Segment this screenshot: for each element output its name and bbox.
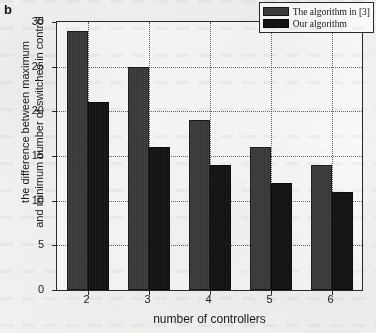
bar-series-0-category-5	[250, 147, 271, 290]
y-tick-mark	[52, 67, 57, 68]
y-tick-label: 20	[32, 104, 44, 116]
y-tick-label: 10	[32, 194, 44, 206]
bar-series-1-category-3	[149, 147, 170, 290]
y-tick-label: 0	[38, 283, 44, 295]
legend-item-1: Our algorithm	[263, 18, 370, 29]
panel-label: b	[4, 2, 12, 17]
bar-series-0-category-2	[67, 31, 88, 290]
legend-item-0: The algorithm in [3]	[263, 6, 370, 17]
y-tick-label: 15	[32, 149, 44, 161]
y-tick-label: 5	[38, 238, 44, 250]
x-tick-label: 6	[327, 293, 333, 305]
y-tick-mark	[52, 245, 57, 246]
bar-series-1-category-6	[332, 192, 353, 290]
y-axis-tick-labels: 051015202530	[0, 21, 52, 291]
legend-swatch-series-1	[263, 19, 289, 28]
y-tick-label: 25	[32, 60, 44, 72]
x-axis-tick-labels: 23456	[56, 293, 363, 309]
x-axis-title: number of controllers	[56, 312, 363, 326]
y-tick-mark	[52, 156, 57, 157]
x-tick-label: 5	[266, 293, 272, 305]
bar-series-0-category-6	[311, 165, 332, 290]
y-tick-mark	[52, 111, 57, 112]
plot-inner	[57, 22, 362, 290]
y-tick-mark	[52, 22, 57, 23]
legend-swatch-series-0	[263, 7, 289, 16]
bar-series-1-category-5	[271, 183, 292, 290]
bar-series-0-category-4	[189, 120, 210, 290]
bar-series-1-category-4	[210, 165, 231, 290]
y-tick-mark	[52, 201, 57, 202]
x-tick-label: 3	[144, 293, 150, 305]
legend-label-series-0: The algorithm in [3]	[293, 7, 370, 17]
chart-legend: The algorithm in [3] Our algorithm	[259, 2, 374, 33]
y-tick-mark	[52, 290, 57, 291]
bar-series-1-category-2	[88, 102, 109, 290]
bar-series-0-category-3	[128, 67, 149, 290]
y-tick-label: 30	[32, 15, 44, 27]
legend-label-series-1: Our algorithm	[293, 19, 347, 29]
plot-area	[56, 21, 363, 291]
x-tick-label: 4	[205, 293, 211, 305]
x-tick-label: 2	[83, 293, 89, 305]
